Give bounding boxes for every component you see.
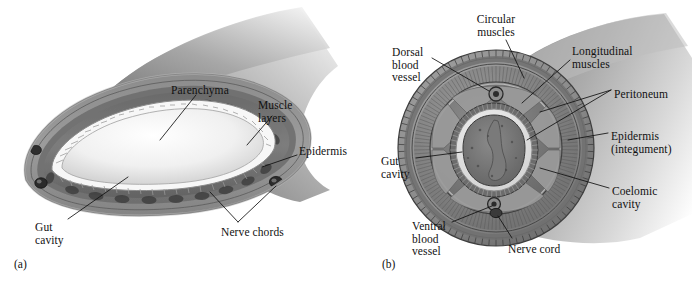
label-longitudinal-muscles: Longitudinal muscles [572, 45, 633, 70]
panel-id-b: (b) [382, 258, 395, 270]
label-muscle-layers: Muscle layers [258, 99, 292, 124]
label-epidermis-integument: Epidermis (integument) [611, 130, 672, 155]
label-coelomic-cavity: Coelomic cavity [612, 185, 658, 210]
nerve-cord-shape [490, 208, 502, 217]
nerve-chord-left [35, 178, 47, 188]
label-parenchyma: Parenchyma [171, 84, 229, 97]
label-nerve-chords: Nerve chords [221, 226, 284, 239]
panel-id-a: (a) [14, 258, 27, 270]
label-nerve-cord: Nerve cord [508, 243, 560, 256]
label-gut-cavity-b: Gut cavity [381, 155, 410, 180]
label-epidermis: Epidermis [299, 145, 347, 158]
label-gut-cavity: Gut cavity [35, 221, 64, 246]
label-circular-muscles: Circular muscles [436, 13, 556, 38]
label-peritoneum: Peritoneum [614, 88, 668, 101]
label-ventral-blood-vessel: Ventral blood vessel [412, 220, 446, 258]
label-dorsal-blood-vessel: Dorsal blood vessel [392, 46, 423, 84]
